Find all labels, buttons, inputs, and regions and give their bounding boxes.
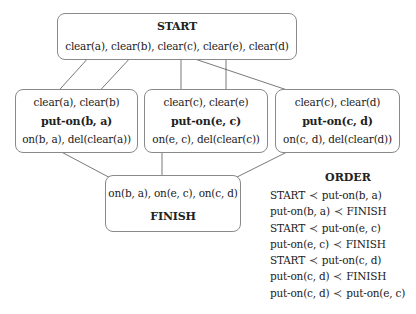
action-name: put-on(b, a)	[16, 115, 137, 128]
start-effects: clear(a), clear(b), clear(c), clear(e), …	[58, 40, 296, 52]
order-constraints: ORDER START≺put-on(b, a) put-on(b, a)≺FI…	[270, 171, 416, 301]
action-name: put-on(e, c)	[145, 115, 267, 128]
action-node-put-on-e-c: clear(c), clear(e) put-on(e, c) on(e, c)…	[144, 89, 268, 153]
order-row: put-on(b, a)≺FINISH	[270, 203, 416, 219]
finish-title: FINISH	[106, 210, 240, 223]
action-preconditions: clear(a), clear(b)	[16, 96, 137, 108]
order-title: ORDER	[270, 171, 416, 184]
order-row: START≺put-on(c, d)	[270, 252, 416, 268]
order-before: put-on(c, d)	[270, 270, 329, 282]
action-effects: on(e, c), del(clear(c))	[145, 133, 267, 145]
finish-node: on(b, a), on(e, c), on(c, d) FINISH	[105, 175, 241, 232]
action-node-put-on-b-a: clear(a), clear(b) put-on(b, a) on(b, a)…	[15, 89, 138, 153]
order-after: put-on(e, c)	[322, 222, 381, 234]
precedes-icon: ≺	[309, 252, 318, 268]
precedes-icon: ≺	[334, 203, 343, 219]
precedes-icon: ≺	[333, 285, 342, 301]
order-row: put-on(e, c)≺FINISH	[270, 236, 416, 252]
start-title: START	[58, 20, 296, 33]
action-name: put-on(c, d)	[276, 115, 399, 128]
order-row: START≺put-on(b, a)	[270, 187, 416, 203]
finish-preconditions: on(b, a), on(e, c), on(c, d)	[106, 187, 240, 199]
start-node: START clear(a), clear(b), clear(c), clea…	[57, 13, 297, 60]
precedes-icon: ≺	[309, 187, 318, 203]
order-after: FINISH	[346, 270, 386, 282]
action-node-put-on-c-d: clear(c), clear(d) put-on(c, d) on(c, d)…	[275, 89, 400, 153]
order-before: START	[270, 254, 305, 266]
order-after: put-on(c, d)	[322, 254, 381, 266]
action-preconditions: clear(c), clear(e)	[145, 96, 267, 108]
order-after: FINISH	[346, 238, 386, 250]
order-before: START	[270, 222, 305, 234]
order-row: put-on(c, d)≺FINISH	[270, 268, 416, 284]
order-after: put-on(e, c)	[346, 287, 405, 299]
action-preconditions: clear(c), clear(d)	[276, 96, 399, 108]
action-effects: on(c, d), del(clear(d))	[276, 133, 399, 145]
precedes-icon: ≺	[333, 268, 342, 284]
order-before: put-on(c, d)	[270, 287, 329, 299]
order-after: FINISH	[347, 205, 387, 217]
order-before: put-on(b, a)	[270, 205, 330, 217]
order-before: put-on(e, c)	[270, 238, 329, 250]
precedes-icon: ≺	[309, 220, 318, 236]
order-row: START≺put-on(e, c)	[270, 220, 416, 236]
order-after: put-on(b, a)	[322, 189, 382, 201]
action-effects: on(b, a), del(clear(a))	[16, 133, 137, 145]
precedes-icon: ≺	[333, 236, 342, 252]
order-row: put-on(c, d)≺put-on(e, c)	[270, 285, 416, 301]
order-before: START	[270, 189, 305, 201]
